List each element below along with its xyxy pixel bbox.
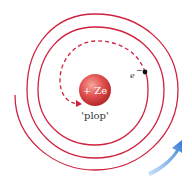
electron-charge: − bbox=[136, 66, 143, 75]
electron-label: e bbox=[130, 71, 135, 80]
electron-dot bbox=[143, 70, 148, 75]
rotation-arrow-icon bbox=[148, 140, 182, 176]
atom-collapse-diagram: + Ze 'plop' e − bbox=[0, 0, 192, 185]
dashed-arrowhead-icon bbox=[76, 100, 82, 107]
nucleus-label: + Ze bbox=[83, 85, 108, 96]
plop-caption: 'plop' bbox=[81, 110, 109, 121]
